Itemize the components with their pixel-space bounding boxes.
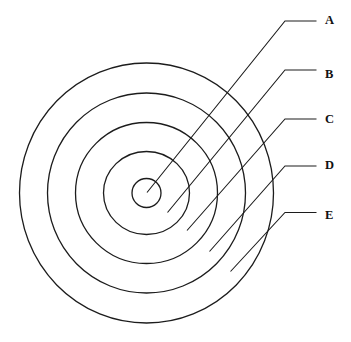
leader-line-d (210, 166, 317, 252)
leader-line-e (231, 213, 317, 272)
label-e: E (325, 208, 333, 222)
leader-line-a (147, 21, 317, 193)
labels-group: ABCDE (325, 13, 334, 222)
leader-line-c (187, 119, 317, 231)
concentric-circle-diagram: ABCDE (0, 0, 351, 342)
label-d: D (325, 158, 334, 172)
ring-1 (132, 179, 161, 208)
label-a: A (325, 13, 334, 27)
ring-5 (20, 63, 274, 323)
ring-2 (104, 152, 190, 235)
rings-group (20, 63, 274, 323)
ring-3 (76, 123, 218, 264)
leader-lines-group (147, 21, 317, 272)
label-b: B (325, 67, 333, 81)
label-c: C (325, 112, 334, 126)
